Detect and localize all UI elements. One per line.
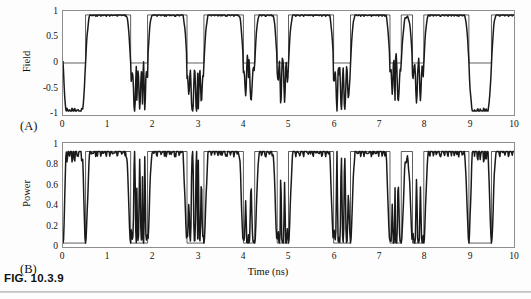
panel-a-xtick-2: 2 [142,120,162,130]
panel-a-xtick-6: 6 [324,120,344,130]
panel-b-ytick-4: 0.2 [30,222,58,232]
panel-a-xtick-8: 8 [414,120,434,130]
panel-b-xtick-0: 0 [52,252,72,262]
panel-b-ytick-3: 0.4 [30,201,58,211]
panel-b-xtick-2: 2 [142,252,162,262]
panel-a-ytick-2: 0 [34,58,58,68]
panel-a-ytick-4: -1 [30,109,58,119]
panel-b-xtick-10: 10 [503,252,525,262]
panel-a-xtick-7: 7 [369,120,389,130]
panel-b-traces [63,143,514,247]
figure-caption: FIG. 10.3.9 [4,272,64,284]
panel-a-ytick-0: 1 [34,7,58,17]
panel-b-y-axis-title: Power [21,166,32,222]
panel-a-ytick-1: 0.5 [30,32,58,42]
panel-b-xtick-1: 1 [97,252,117,262]
panel-a-xtick-1: 1 [97,120,117,130]
panel-b-plot-area [62,142,515,248]
panel-b-xtick-6: 6 [324,252,344,262]
panel-a-plot-area [62,10,515,116]
panel-b-xtick-9: 9 [460,252,480,262]
panel-b-xtick-4: 4 [233,252,253,262]
panel-a-xtick-3: 3 [188,120,208,130]
panel-a-xtick-10: 10 [503,120,525,130]
panel-b-ytick-1: 0.8 [30,160,58,170]
panel-a-y-axis-title: Field [21,34,32,90]
caption-divider [0,291,531,293]
panel-a-xtick-9: 9 [460,120,480,130]
panel-b-ytick-2: 0.6 [30,181,58,191]
panel-a-xtick-5: 5 [278,120,298,130]
panel-b-ytick-0: 1 [34,140,58,150]
panel-b-ytick-5: 0 [34,242,58,252]
panel-a-traces [63,11,514,115]
panel-a-xtick-0: 0 [52,120,72,130]
panel-b-xtick-3: 3 [188,252,208,262]
panel-b-xtick-8: 8 [414,252,434,262]
figure-root: 1 0.5 0 -0.5 -1 Field 0 1 2 3 4 5 6 7 8 … [0,0,531,299]
panel-a-label: (A) [20,119,37,134]
panel-b-xtick-7: 7 [369,252,389,262]
x-axis-title: Time (ns) [218,266,318,277]
panel-b-xtick-5: 5 [278,252,298,262]
panel-a-xtick-4: 4 [233,120,253,130]
